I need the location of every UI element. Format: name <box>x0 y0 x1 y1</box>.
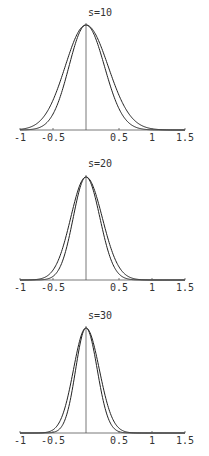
chart-title: s=20 <box>88 158 112 169</box>
x-tick-label: 1 <box>149 132 155 143</box>
chart-panel-1: -1-0.50.511.5s=10 <box>14 7 194 143</box>
x-tick-label: 1.5 <box>176 435 194 446</box>
x-tick-label: -1 <box>14 132 26 143</box>
curve-density-a <box>20 328 185 433</box>
x-tick-label: -0.5 <box>41 282 65 293</box>
curve-density-a <box>20 25 185 130</box>
x-tick-label: 1 <box>149 282 155 293</box>
curve-density-b <box>20 25 185 130</box>
x-tick-label: 1.5 <box>176 282 194 293</box>
x-tick-label: -1 <box>14 435 26 446</box>
chart-title: s=30 <box>88 310 112 321</box>
curve-density-b <box>20 177 185 280</box>
density-plots: -1-0.50.511.5s=10-1-0.50.511.5s=20-1-0.5… <box>0 0 209 456</box>
x-tick-label: 0.5 <box>110 282 128 293</box>
x-tick-label: -0.5 <box>41 435 65 446</box>
chart-title: s=10 <box>88 7 112 18</box>
x-tick-label: 1.5 <box>176 132 194 143</box>
x-tick-label: 0.5 <box>110 132 128 143</box>
chart-panel-2: -1-0.50.511.5s=20 <box>14 158 194 293</box>
x-tick-label: 0.5 <box>110 435 128 446</box>
x-tick-label: -0.5 <box>41 132 65 143</box>
curve-density-b <box>20 328 185 433</box>
chart-panel-3: -1-0.50.511.5s=30 <box>14 310 194 446</box>
x-tick-label: -1 <box>14 282 26 293</box>
x-tick-label: 1 <box>149 435 155 446</box>
